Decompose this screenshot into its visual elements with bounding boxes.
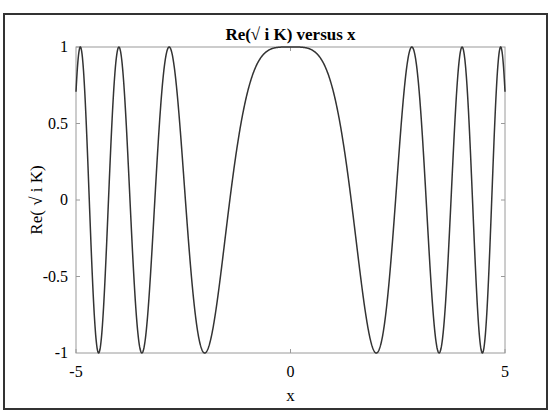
x-axis-label: x xyxy=(286,386,295,405)
y-tick-label: 0 xyxy=(60,191,68,208)
axes-box xyxy=(76,47,505,353)
x-tick-label: 5 xyxy=(501,363,509,380)
y-tick-label: -1 xyxy=(55,344,68,361)
data-line xyxy=(76,47,505,353)
tick-marks xyxy=(76,47,505,353)
y-axis-label: Re( √ i K) xyxy=(27,165,46,234)
x-tick-label: -5 xyxy=(69,363,82,380)
chart: Re(√ i K) versus x 1 0.5 0 -0.5 -1 -5 0 … xyxy=(0,0,554,419)
x-tick-label: 0 xyxy=(287,363,295,380)
chart-title: Re(√ i K) versus x xyxy=(225,25,356,44)
y-tick-label: 0.5 xyxy=(48,115,68,132)
y-tick-label: -0.5 xyxy=(43,268,68,285)
y-tick-label: 1 xyxy=(60,38,68,55)
